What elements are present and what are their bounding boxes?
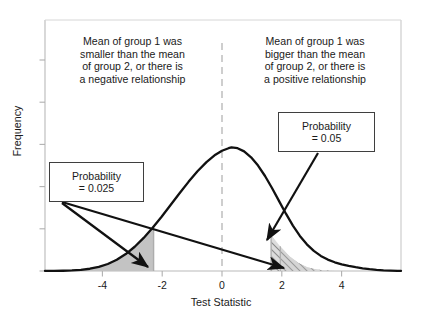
x-tick-label-4: 4 bbox=[329, 279, 355, 291]
x-tick-label-minus-4: -4 bbox=[89, 279, 115, 291]
chart-figure: Mean of group 1 was smaller than the mea… bbox=[0, 0, 422, 321]
right-annotation-line-1: Mean of group 1 was bbox=[241, 35, 389, 48]
arrow-left-tail bbox=[62, 203, 148, 267]
arrow-right-tail-0025 bbox=[62, 202, 284, 268]
right-region-annotation: Mean of group 1 was bigger than the mean… bbox=[241, 35, 389, 85]
x-tick-label-minus-2: -2 bbox=[149, 279, 175, 291]
x-tick-label-2: 2 bbox=[269, 279, 295, 291]
x-axis-title: Test Statistic bbox=[151, 296, 291, 308]
right-annotation-line-4: a positive relationship bbox=[241, 73, 389, 86]
right-annotation-line-2: bigger than the mean bbox=[241, 48, 389, 61]
left-tail-shade bbox=[45, 227, 154, 271]
y-axis-title: Frequency bbox=[11, 86, 23, 176]
left-annotation-line-4: a negative relationship bbox=[60, 73, 205, 86]
y-axis-ticks bbox=[40, 60, 46, 271]
x-axis-ticks bbox=[102, 271, 341, 277]
left-annotation-line-1: Mean of group 1 was bbox=[60, 35, 205, 48]
probability-005-callout: Probability = 0.05 bbox=[278, 112, 375, 152]
probability-0025-value: = 0.025 bbox=[79, 182, 114, 194]
left-region-annotation: Mean of group 1 was smaller than the mea… bbox=[60, 35, 205, 85]
right-annotation-line-3: of group 2, or there is bbox=[241, 60, 389, 73]
probability-0025-label: Probability bbox=[72, 170, 121, 182]
probability-0025-callout: Probability = 0.025 bbox=[49, 162, 144, 202]
probability-005-label: Probability bbox=[302, 120, 351, 132]
probability-005-value: = 0.05 bbox=[312, 132, 342, 144]
left-annotation-line-3: of group 2, or there is bbox=[60, 60, 205, 73]
right-tail-hatched-overlay bbox=[280, 247, 401, 271]
left-annotation-line-2: smaller than the mean bbox=[60, 48, 205, 61]
x-tick-label-0: 0 bbox=[209, 279, 235, 291]
